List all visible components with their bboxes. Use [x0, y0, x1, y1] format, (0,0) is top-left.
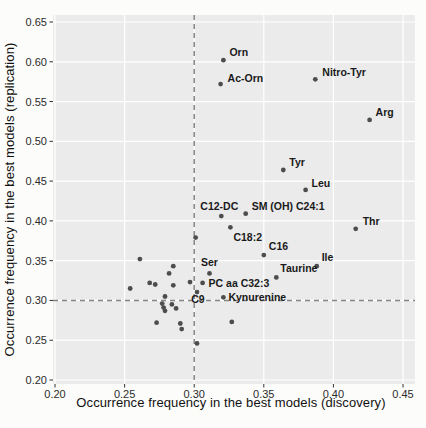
data-point — [274, 275, 279, 280]
data-point — [243, 211, 248, 216]
data-point — [313, 77, 318, 82]
data-point — [167, 271, 172, 276]
y-tick-label: 0.20 — [26, 374, 47, 386]
data-point — [367, 118, 372, 123]
data-point — [174, 306, 179, 311]
point-label: Thr — [363, 215, 380, 227]
data-point — [303, 188, 308, 193]
data-point — [200, 281, 205, 286]
data-point — [219, 214, 224, 219]
data-point — [228, 225, 233, 230]
data-point — [170, 302, 175, 307]
data-point — [163, 294, 168, 299]
y-tick-label: 0.50 — [26, 135, 47, 147]
data-point — [261, 253, 266, 258]
data-point — [218, 82, 223, 87]
data-point — [195, 341, 200, 346]
data-point — [179, 327, 184, 332]
y-tick-label: 0.60 — [26, 56, 47, 68]
data-point — [221, 295, 226, 300]
data-point — [193, 235, 198, 240]
y-tick-label: 0.55 — [26, 96, 47, 108]
data-point — [353, 226, 358, 231]
scatter-plot-figure: 0.200.250.300.350.400.450.200.250.300.35… — [0, 0, 426, 428]
data-point — [281, 168, 286, 173]
point-label: Arg — [376, 106, 394, 118]
point-label: Ser — [201, 256, 218, 268]
data-point — [221, 58, 226, 63]
y-tick-label: 0.25 — [26, 334, 47, 346]
point-label: PC aa C32:3 — [209, 277, 270, 289]
point-label: C16 — [269, 240, 288, 252]
y-tick-label: 0.45 — [26, 175, 47, 187]
y-axis-title: Occurrence frequency in the best models … — [2, 15, 17, 384]
point-label: Orn — [229, 46, 248, 58]
data-point — [229, 320, 234, 325]
data-point — [188, 280, 193, 285]
y-tick-label: 0.40 — [26, 215, 47, 227]
x-axis-title: Occurrence frequency in the best models … — [55, 395, 407, 410]
point-label: Leu — [312, 177, 331, 189]
point-label: SM (OH) C24:1 — [252, 200, 325, 212]
point-label: Tyr — [289, 156, 305, 168]
data-point — [153, 282, 158, 287]
data-point — [207, 271, 212, 276]
point-label: Ac-Orn — [228, 72, 264, 84]
data-point — [163, 308, 168, 313]
data-point — [138, 257, 143, 262]
data-point — [171, 264, 176, 269]
data-point — [154, 320, 159, 325]
data-point — [128, 286, 133, 291]
data-point — [171, 283, 176, 288]
y-tick-label: 0.65 — [26, 16, 47, 28]
y-tick-label: 0.30 — [26, 294, 47, 306]
chart-svg: 0.200.250.300.350.400.450.200.250.300.35… — [0, 0, 426, 428]
point-label: Taurine — [280, 262, 317, 274]
data-point — [178, 321, 183, 326]
point-label: C18:2 — [233, 231, 262, 243]
y-tick-label: 0.35 — [26, 255, 47, 267]
point-label: Ile — [322, 251, 334, 263]
data-point — [147, 281, 152, 286]
point-label: C12-DC — [200, 200, 238, 212]
point-label: Nitro-Tyr — [322, 66, 366, 78]
point-label: Kynurenine — [228, 291, 286, 303]
point-label: C9 — [191, 293, 205, 305]
